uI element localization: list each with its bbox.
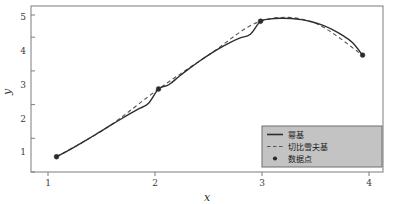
data-point: [156, 87, 161, 92]
y-tick-label-1: 1: [20, 147, 26, 157]
interpolation-line-chart: 1 2 3 4 5 1 2 3 4 x y 幂: [0, 0, 398, 204]
legend-label-chebyshev-basis: 切比雪夫基: [288, 142, 328, 152]
y-tick-label-3: 3: [20, 80, 26, 90]
chart-figure: 1 2 3 4 5 1 2 3 4 x y 幂: [0, 0, 398, 204]
data-point: [258, 19, 263, 24]
y-tick-label-2: 2: [20, 114, 26, 124]
data-point: [360, 53, 365, 58]
legend-dot-icon: [273, 156, 277, 160]
x-axis-title: x: [204, 191, 211, 204]
chart-legend[interactable]: 幂基 切比雪夫基 数据点: [262, 126, 382, 167]
x-tick-label-4: 4: [366, 178, 372, 188]
y-tick-label-4: 4: [20, 46, 26, 56]
y-tick-label-5: 5: [20, 12, 26, 22]
x-tick-label-2: 2: [152, 178, 158, 188]
legend-label-power-basis: 幂基: [288, 130, 304, 140]
x-axis-ticks: [48, 172, 369, 176]
x-tick-label-3: 3: [259, 178, 265, 188]
data-point: [54, 154, 59, 159]
x-tick-label-1: 1: [45, 178, 51, 188]
legend-label-data-points: 数据点: [288, 154, 312, 164]
y-axis-title: y: [1, 88, 14, 96]
